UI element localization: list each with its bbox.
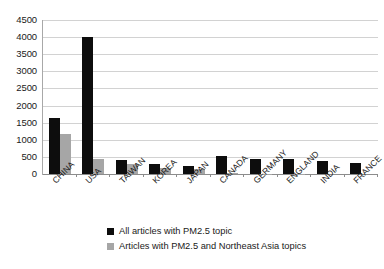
x-axis-label-cell: KOREA: [144, 176, 178, 218]
bar: [49, 118, 60, 174]
y-axis-tick-label: 1000: [16, 135, 37, 145]
y-axis-tick-labels: 450040003500300025002000150010005000: [0, 14, 40, 174]
chart-legend: All articles with PM2.5 topicArticles wi…: [107, 224, 367, 254]
y-axis-tick-label: 0: [32, 169, 37, 179]
x-axis-label-cell: JAPAN: [177, 176, 211, 218]
x-axis-label-cell: TAIWAN: [110, 176, 144, 218]
bar-group: [345, 20, 379, 174]
y-axis-tick-label: 4500: [16, 15, 37, 25]
y-axis-tick-label: 3000: [16, 67, 37, 77]
y-axis-tick-label: 4000: [16, 32, 37, 42]
bar-group: [43, 20, 77, 174]
x-axis-label-cell: INDIA: [311, 176, 345, 218]
plot-wrapper: 450040003500300025002000150010005000 CHI…: [0, 0, 384, 200]
y-axis-tick-label: 500: [21, 152, 37, 162]
x-axis-label-cell: ENGLAND: [278, 176, 312, 218]
x-axis-label-cell: CANADA: [211, 176, 245, 218]
legend-swatch-icon: [107, 243, 114, 250]
legend-swatch-icon: [107, 228, 114, 235]
bar-chart: 450040003500300025002000150010005000 CHI…: [0, 0, 384, 269]
x-axis-label-cell: CHINA: [43, 176, 77, 218]
bar-group: [211, 20, 245, 174]
bar-group: [77, 20, 111, 174]
bar-group: [244, 20, 278, 174]
bar-group: [177, 20, 211, 174]
x-axis-category-labels: CHINAUSATAIWANKOREAJAPANCANADAGERMANYENG…: [43, 176, 378, 218]
legend-item: Articles with PM2.5 and Northeast Asia t…: [107, 239, 367, 254]
y-axis-tick-label: 2500: [16, 84, 37, 94]
legend-label: All articles with PM2.5 topic: [119, 227, 232, 236]
y-axis-tick-label: 1500: [16, 118, 37, 128]
y-axis-tick-label: 2000: [16, 101, 37, 111]
y-axis-tick-label: 3500: [16, 49, 37, 59]
x-axis-label-cell: FRANCE: [345, 176, 379, 218]
x-axis-label-cell: GERMANY: [244, 176, 278, 218]
x-axis-label-cell: USA: [77, 176, 111, 218]
legend-item: All articles with PM2.5 topic: [107, 224, 367, 239]
bar: [82, 37, 93, 174]
legend-label: Articles with PM2.5 and Northeast Asia t…: [119, 242, 306, 251]
bar-groups: [43, 20, 378, 174]
bar-group: [144, 20, 178, 174]
bar-group: [110, 20, 144, 174]
